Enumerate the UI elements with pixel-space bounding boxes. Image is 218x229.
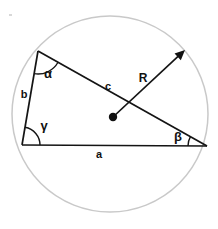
geometry-figure: a b c α β γ R [0, 0, 218, 229]
image-speck [9, 14, 12, 16]
circle-center-dot [109, 113, 117, 121]
radius-label: R [139, 71, 148, 85]
radius-line [113, 55, 179, 117]
diagram-canvas: a b c α β γ R [0, 0, 218, 229]
angle-gamma-arc [25, 127, 40, 145]
angle-beta-label: β [174, 129, 182, 144]
side-a-line [22, 145, 207, 146]
circumscribed-circle [12, 16, 208, 212]
side-c-label: c [105, 80, 111, 92]
angle-gamma-label: γ [40, 118, 48, 133]
angle-beta-arc [188, 137, 190, 146]
side-b-label: b [21, 88, 28, 100]
angle-alpha-label: α [44, 66, 52, 81]
side-a-label: a [96, 148, 103, 160]
